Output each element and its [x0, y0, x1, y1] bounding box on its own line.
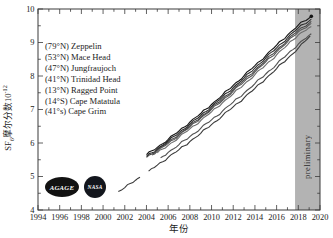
legend-item: (53°N) Mace Head — [45, 52, 121, 63]
agage-logo: AGAGE — [45, 177, 79, 197]
y-tick-label: 9 — [30, 38, 34, 47]
data-endpoint-marker — [310, 15, 314, 19]
y-axis-title-sub: 6 — [8, 138, 15, 141]
data-line — [161, 34, 312, 158]
y-axis-title-pre: SF — [3, 141, 13, 151]
y-tick-label: 6 — [30, 139, 34, 148]
nasa-logo-text: NASA — [88, 184, 103, 190]
y-tick-label: 7 — [30, 105, 34, 114]
y-tick-label: 8 — [30, 72, 34, 81]
agage-logo-text: AGAGE — [50, 184, 74, 191]
legend-item: (14°S) Cape Matatula — [45, 96, 121, 107]
y-axis-title-sup: -12 — [1, 85, 8, 93]
data-lines-group — [118, 15, 313, 192]
legend-item: (13°N) Ragged Point — [45, 85, 121, 96]
y-axis-title: SF6摩尔分数10-12 — [1, 58, 15, 178]
nasa-logo: NASA — [84, 176, 106, 198]
y-axis-title-mid: 摩尔分数10 — [3, 94, 13, 139]
x-axis-title: 年份 — [38, 221, 320, 235]
legend-item: (79°N) Zeppelin — [45, 41, 121, 52]
chart-canvas: 1994199619982000200220042006200820102012… — [0, 0, 333, 238]
data-line — [147, 16, 312, 154]
legend-item: (41°s) Cape Grim — [45, 106, 121, 117]
preliminary-band-label: preliminary — [298, 105, 316, 209]
legend-item: (41°N) Trinidad Head — [45, 74, 121, 85]
y-tick-label: 10 — [26, 5, 34, 14]
y-tick-label: 5 — [30, 172, 34, 181]
legend-item: (47°N) Jungfraujoch — [45, 63, 121, 74]
station-legend: (79°N) Zeppelin(53°N) Mace Head(47°N) Ju… — [45, 41, 121, 117]
sf6-mole-fraction-figure: 1994199619982000200220042006200820102012… — [0, 0, 333, 238]
